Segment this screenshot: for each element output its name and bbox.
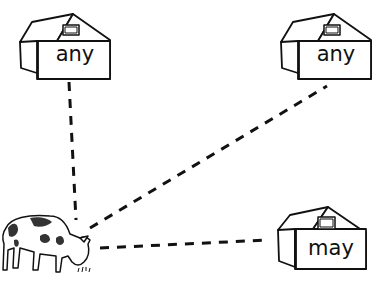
connector-top-left xyxy=(69,82,76,220)
connector-bottom-right xyxy=(100,240,268,248)
grass-icon xyxy=(78,267,90,272)
barn-label-top-left: any xyxy=(40,44,110,65)
connector-top-right xyxy=(90,86,327,228)
barn-label-bottom-right: may xyxy=(296,238,366,259)
cow-icon xyxy=(3,216,90,273)
worksheet-canvas: any any may xyxy=(0,0,382,290)
barn-label-top-right: any xyxy=(301,44,371,65)
